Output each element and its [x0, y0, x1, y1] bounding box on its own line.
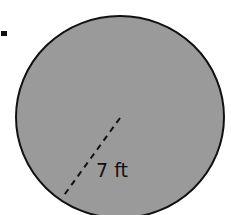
circle-diagram — [0, 0, 231, 215]
bullet-marker — [1, 31, 7, 36]
circle-shape — [16, 16, 224, 215]
radius-label: 7 ft — [96, 159, 128, 181]
